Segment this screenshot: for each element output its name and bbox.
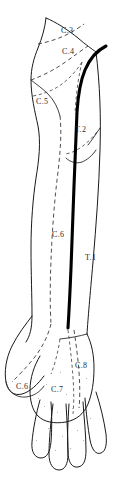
stipple-dot [60,372,61,373]
dermatome-label-c4-1: C.4 [62,48,74,56]
limb-outline-group [26,18,100,342]
dermatome-label-c5-2: C.5 [36,98,48,106]
boundary-c6-c7-hand [12,324,51,382]
stipple-dot [86,378,87,379]
stipple-dot [55,450,56,451]
boundary-t2-tail [88,128,100,145]
boundary-hand-dorsal-split [51,339,60,374]
axilla-fold-outline [66,150,96,163]
arm-outer-edge-outline [87,52,100,334]
dermatome-label-t2-3: T.2 [75,126,86,134]
finger-little-outline [85,392,106,453]
palm-outline [30,334,94,423]
stipple-dot [48,428,49,429]
dermatome-label-c6-4: C.6 [52,231,64,239]
stipple-dot [44,406,45,407]
stipple-dot [70,448,71,449]
dermatome-label-c6-7: C.6 [16,383,28,391]
ventral-axial-line [68,46,106,328]
dermatome-label-c8-6: C.8 [75,362,87,370]
stipple-dot [36,440,37,441]
wrist-crease-outline [60,334,87,339]
stipple-dot [62,436,63,437]
stipple-dot [66,394,67,395]
stipple-dot [57,412,58,413]
stipple-dot [72,408,73,409]
stipple-dot [83,440,84,441]
dermatome-boundary-group [12,24,100,414]
dermatome-label-t1-5: T.1 [85,254,96,262]
stipple-dot [84,400,85,401]
dermatome-figure: C.3C.4C.5T.2C.6T.1C.8C.6C.7 [0,0,125,478]
stipple-dot [46,384,47,385]
finger-ring-outline [68,402,86,467]
dermatome-label-c7-8: C.7 [51,386,63,394]
boundary-c7-c8-palm [68,330,74,414]
stipple-dot [77,430,78,431]
stipple-dot [90,418,91,419]
boundary-c5-c6-longitudinal [50,116,61,324]
dermatome-label-c3-0: C.3 [61,27,73,35]
arm-inner-edge-outline [26,18,46,342]
boundary-t2 [64,132,97,154]
dermatome-illustration [0,0,125,478]
stipple-dot [38,398,39,399]
